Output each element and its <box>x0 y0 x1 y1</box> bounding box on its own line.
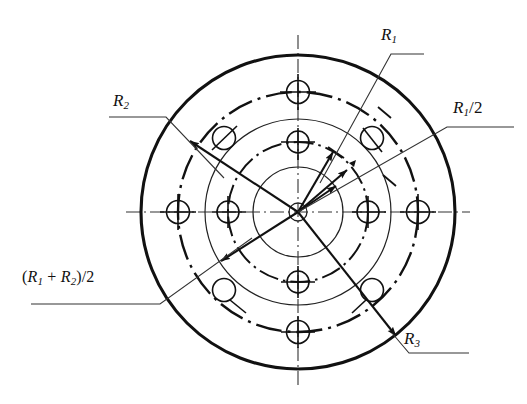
label-r1: R1 <box>381 26 397 45</box>
hole-left-inner <box>212 196 246 228</box>
label-rsum-close: )/2 <box>76 268 94 285</box>
hole-left-outer <box>160 194 196 230</box>
arrow-r2-short <box>298 186 336 212</box>
arrow-r1 <box>298 152 333 212</box>
label-rsum-base2: R <box>61 268 71 285</box>
label-r1-base: R <box>381 25 392 44</box>
label-rsum-base1: R <box>28 268 38 285</box>
label-r1-half: R1/2 <box>453 99 483 118</box>
label-rsum-plus: + <box>43 268 61 285</box>
hole-right-inner <box>352 196 386 228</box>
arrow-tip-blob <box>349 160 356 167</box>
label-r2-base: R <box>113 91 124 110</box>
hole-upper-right <box>361 127 384 153</box>
label-r1-half-base: R <box>453 98 464 117</box>
label-r2-sub: 2 <box>124 99 130 111</box>
hole-bottom-outer <box>281 316 315 348</box>
hole-right-outer <box>400 194 436 230</box>
flange-diagram-svg <box>0 0 527 404</box>
dimension-line-rsum <box>221 212 298 261</box>
hole-upper-left <box>212 126 237 150</box>
label-r3-base: R <box>404 329 415 348</box>
hole-top-outer <box>280 74 316 110</box>
label-r-sum-half: (R1 + R2)/2 <box>22 269 95 287</box>
label-r1-sub: 1 <box>392 33 398 45</box>
figure-canvas: R1 R2 R1/2 R3 (R1 + R2)/2 <box>0 0 527 404</box>
hole-lower-left <box>213 279 247 314</box>
leader-r1-half <box>298 127 514 212</box>
tick-outer-on-ray <box>378 107 391 118</box>
label-r2: R2 <box>113 92 129 111</box>
label-r3: R3 <box>404 330 420 349</box>
dimension-line-r3 <box>298 212 396 336</box>
hole-bottom-inner <box>281 266 315 298</box>
label-r3-sub: 3 <box>415 337 421 349</box>
label-r1-half-suffix: /2 <box>469 98 483 117</box>
